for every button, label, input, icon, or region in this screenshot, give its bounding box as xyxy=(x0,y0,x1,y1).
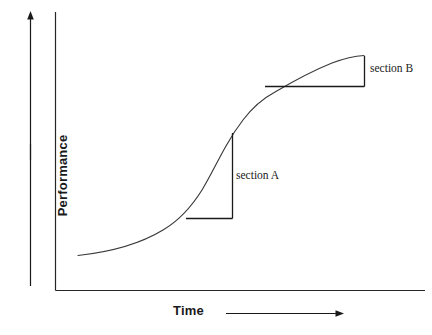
y-axis-title: Performance xyxy=(55,116,70,236)
annotation-label-section-a: section A xyxy=(236,169,279,181)
annotation-section-b-wedge xyxy=(265,56,365,87)
x-axis-arrow-icon xyxy=(226,310,344,317)
annotation-label-section-b: section B xyxy=(370,62,413,74)
performance-curve xyxy=(78,56,364,256)
plot-frame xyxy=(56,12,426,291)
x-axis-title: Time xyxy=(173,303,204,318)
chart-figure: Performance Time section A section B xyxy=(0,0,432,335)
